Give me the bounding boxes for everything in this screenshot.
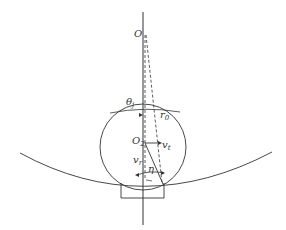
theta-arrowhead: [139, 113, 143, 117]
angle-mark: [146, 180, 152, 181]
ground-arc: [20, 152, 272, 186]
diagram-svg: O θj r0 O2 vt vr η: [0, 0, 286, 230]
eta-arrowhead-left: [135, 173, 139, 177]
label-r0: r0: [160, 109, 170, 122]
label-vr: vr: [133, 154, 143, 167]
label-O: O: [134, 28, 142, 39]
label-eta: η: [148, 163, 154, 174]
label-vt: vt: [162, 139, 171, 152]
eta-arrowhead-right: [161, 171, 165, 175]
diagram-canvas: O θj r0 O2 vt vr η: [0, 0, 286, 230]
